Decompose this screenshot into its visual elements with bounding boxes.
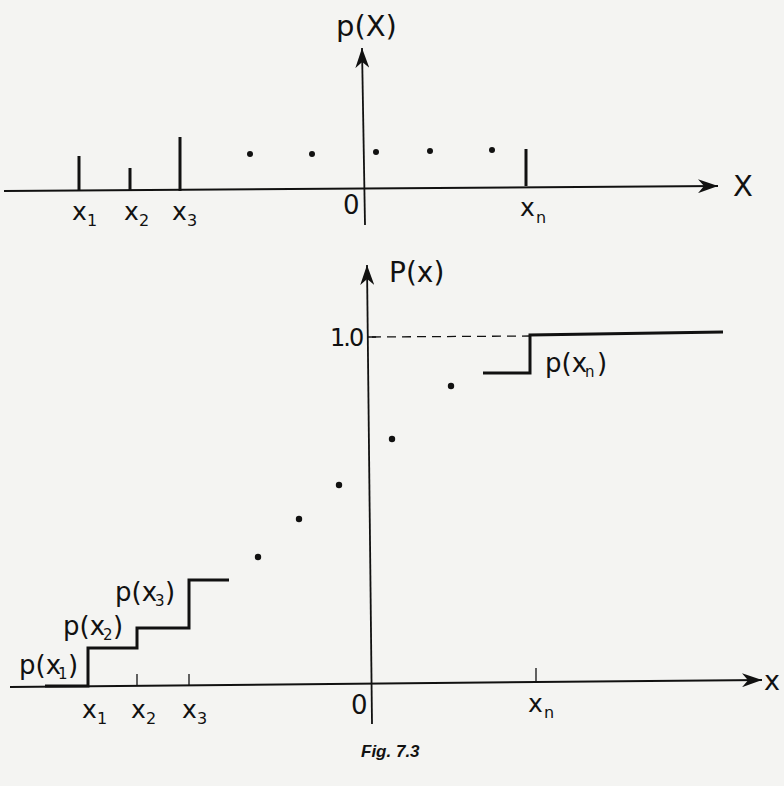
top-tick-label-x3: x 3 (172, 197, 197, 230)
svg-text:3: 3 (155, 592, 165, 610)
svg-text:1: 1 (58, 665, 68, 683)
top-x-axis-label: X (733, 169, 753, 203)
y-tick-label-1: 1.0 (330, 324, 363, 352)
bottom-tick-label-xn: x n (528, 689, 554, 722)
step-label-p-x3: p(x 3 ) (115, 577, 175, 610)
svg-text:p(x: p(x (115, 577, 157, 607)
svg-text:1: 1 (87, 211, 97, 230)
step-label-p-x2: p(x 2 ) (63, 611, 123, 644)
svg-text:x: x (124, 197, 139, 226)
bottom-y-axis (367, 265, 372, 724)
ellipsis-dots-bottom (255, 383, 454, 560)
svg-text:x: x (131, 695, 146, 724)
svg-text:x: x (528, 689, 543, 718)
top-chart: p(X) X 0 x 1 x 2 x 3 x n (4, 9, 753, 230)
step-label-p-x1: p(x 1 ) (19, 650, 78, 683)
svg-text:2: 2 (139, 211, 149, 230)
bottom-chart: 1.0 P(x) x 0 x 1 x 2 (10, 256, 780, 728)
svg-text:3: 3 (197, 709, 207, 728)
top-x-axis (4, 186, 718, 191)
top-y-axis-label: p(X) (336, 9, 397, 43)
top-origin-label: 0 (343, 190, 360, 220)
svg-text:x: x (82, 695, 97, 724)
bottom-x-axis (10, 680, 762, 687)
svg-text:): ) (68, 650, 78, 680)
svg-text:): ) (113, 611, 123, 641)
top-tick-label-x2: x 2 (124, 197, 149, 230)
svg-text:p(x: p(x (63, 611, 105, 641)
svg-text:p(x: p(x (19, 650, 61, 680)
bottom-x-axis-label: x (764, 665, 780, 696)
figure-canvas: p(X) X 0 x 1 x 2 x 3 x n 1.0 (0, 0, 784, 786)
svg-text:2: 2 (146, 709, 156, 728)
svg-text:3: 3 (187, 211, 197, 230)
svg-text:x: x (182, 695, 197, 724)
bottom-origin-label: 0 (351, 690, 368, 720)
svg-text:n: n (585, 363, 595, 381)
dashed-line-1 (372, 336, 530, 337)
svg-text:2: 2 (103, 626, 113, 644)
figure-caption: Fig. 7.3 (361, 742, 420, 761)
svg-text:1: 1 (97, 709, 107, 728)
bottom-tick-label-x1: x 1 (82, 695, 107, 728)
svg-text:n: n (544, 703, 554, 722)
ellipsis-dots-top (247, 147, 495, 157)
svg-text:n: n (536, 208, 546, 227)
step-label-p-xn: p(x n ) (545, 348, 607, 381)
bottom-tick-label-x2: x 2 (131, 695, 156, 728)
svg-text:): ) (165, 577, 175, 607)
top-tick-label-xn: x n (520, 193, 546, 227)
svg-text:x: x (520, 193, 535, 222)
svg-text:): ) (597, 348, 607, 378)
svg-text:x: x (72, 197, 87, 226)
top-tick-label-x1: x 1 (72, 197, 97, 230)
top-y-axis (362, 48, 365, 225)
svg-text:x: x (172, 197, 187, 226)
bottom-y-axis-label: P(x) (389, 256, 444, 289)
svg-text:p(x: p(x (545, 348, 587, 378)
bottom-tick-label-x3: x 3 (182, 695, 207, 728)
